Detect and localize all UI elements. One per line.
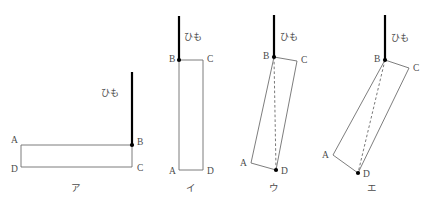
figure-a-caption: ア bbox=[71, 183, 81, 193]
figure-c-string-label: ひも bbox=[280, 32, 298, 42]
figure-d-caption: エ bbox=[367, 183, 377, 193]
figure-sheet: ひも A B C D ア ひも A B C D イ bbox=[0, 0, 432, 205]
figure-b-corner-label-b: B bbox=[169, 54, 175, 64]
figure-b-corner-label-c: C bbox=[207, 54, 213, 64]
figure-b-string-label: ひも bbox=[184, 32, 202, 42]
figure-b-plate-fill bbox=[179, 60, 203, 170]
figure-b-group: ひも A B C D イ bbox=[169, 16, 214, 193]
figure-b-corner-label-a: A bbox=[169, 166, 176, 176]
figure-d-corner-label-b: B bbox=[374, 54, 380, 64]
figure-c-pivot-dot bbox=[272, 55, 276, 59]
figure-d-corner-label-c: C bbox=[413, 63, 419, 73]
figure-c-group: ひも A B C D ウ bbox=[240, 15, 307, 193]
figure-b-corner-label-d: D bbox=[207, 166, 214, 176]
figure-d-string-label: ひも bbox=[391, 33, 409, 43]
figure-d-corner-dot-d bbox=[356, 171, 360, 175]
figure-c-corner-label-c: C bbox=[301, 55, 307, 65]
figure-d-plate-fill bbox=[333, 60, 409, 173]
figure-b-caption: イ bbox=[186, 183, 196, 193]
figure-d-pivot-dot bbox=[383, 58, 387, 62]
figure-a-corner-label-d: D bbox=[11, 164, 18, 174]
figure-b-pivot-dot bbox=[177, 58, 181, 62]
figure-c-corner-label-d: D bbox=[281, 166, 288, 176]
figure-a-corner-label-c: C bbox=[137, 163, 143, 173]
figure-a-plate-fill bbox=[21, 145, 132, 167]
figure-d-corner-label-a: A bbox=[322, 150, 329, 160]
figure-c-corner-label-a: A bbox=[240, 158, 247, 168]
figure-a-group: ひも A B C D ア bbox=[11, 72, 143, 193]
figure-d-corner-label-d: D bbox=[363, 169, 370, 179]
figure-a-corner-label-b: B bbox=[137, 137, 143, 147]
figure-diagram-canvas: ひも A B C D ア ひも A B C D イ bbox=[0, 0, 432, 205]
figure-d-group: ひも A B C D エ bbox=[322, 15, 419, 193]
figure-c-corner-dot-d bbox=[274, 168, 278, 172]
figure-a-corner-label-a: A bbox=[11, 135, 18, 145]
figure-a-string-label: ひも bbox=[101, 88, 119, 98]
figure-c-caption: ウ bbox=[269, 183, 279, 193]
figure-c-corner-label-b: B bbox=[263, 51, 269, 61]
figure-a-pivot-dot bbox=[130, 143, 134, 147]
